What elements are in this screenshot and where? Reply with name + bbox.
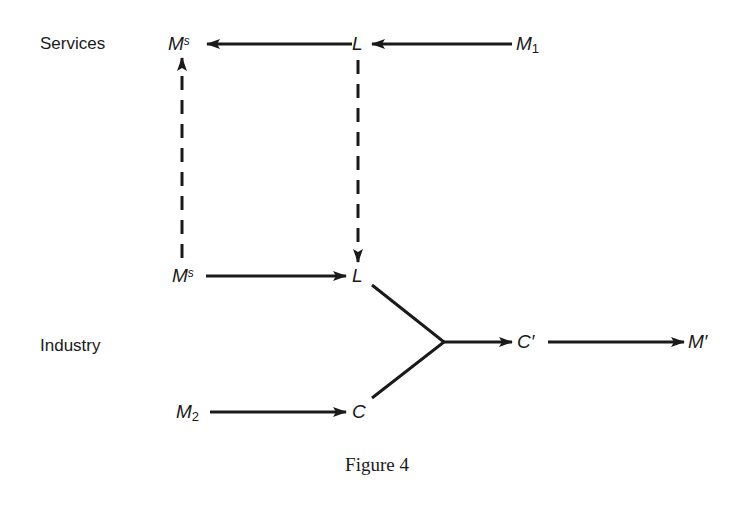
diagram: Services Industry Ms L M1 Ms L M2 C C′ M… — [0, 0, 754, 511]
edge-merge-l-c — [372, 285, 444, 398]
node-l-services: L — [352, 33, 363, 55]
node-base: C′ — [517, 331, 534, 352]
diagram-edges — [0, 0, 754, 511]
node-c-prime: C′ — [517, 331, 534, 353]
node-ms-industry: Ms — [172, 265, 194, 287]
node-base: C — [352, 401, 366, 422]
node-base: L — [352, 33, 363, 54]
node-base: L — [352, 265, 363, 286]
row-label-industry: Industry — [40, 336, 100, 356]
node-m2: M2 — [176, 401, 199, 423]
node-base: M — [516, 33, 532, 54]
figure-caption: Figure 4 — [0, 454, 754, 476]
node-base: M′ — [688, 331, 707, 352]
node-m-prime: M′ — [688, 331, 707, 353]
node-m1: M1 — [516, 33, 539, 55]
node-base: M — [176, 401, 192, 422]
node-c: C — [352, 401, 366, 423]
node-base: M — [168, 33, 184, 54]
node-base: M — [172, 265, 188, 286]
node-ms-services: Ms — [168, 33, 190, 55]
row-label-services: Services — [40, 34, 105, 54]
node-sub: 1 — [532, 41, 539, 56]
node-sub: 2 — [192, 409, 199, 424]
node-l-industry: L — [352, 265, 363, 287]
node-sup: s — [184, 34, 190, 48]
node-sup: s — [188, 266, 194, 280]
